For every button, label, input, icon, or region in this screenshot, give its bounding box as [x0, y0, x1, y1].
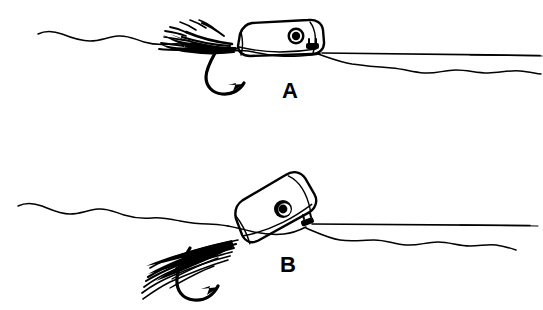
popper-eye-b: [274, 200, 292, 218]
panel-a-label: A: [282, 78, 298, 103]
popper-comparison-drawing: A: [0, 0, 543, 310]
popper-body-a: [238, 20, 324, 56]
figure-illustration: A: [0, 0, 543, 310]
hackle-fiber: [159, 49, 184, 50]
panel-b-label: B: [280, 252, 296, 277]
popper-eye-a: [288, 28, 305, 45]
